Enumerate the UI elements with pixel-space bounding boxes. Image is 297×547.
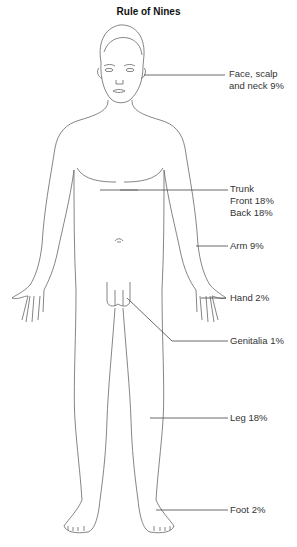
label-trunk-line1: Trunk [230, 183, 274, 195]
right-arm [164, 148, 226, 322]
genitalia [107, 282, 130, 306]
label-trunk: Trunk Front 18% Back 18% [230, 183, 274, 219]
label-genitalia: Genitalia 1% [230, 335, 284, 347]
torso [55, 100, 185, 290]
left-arm [12, 148, 74, 322]
label-face-line2: and neck 9% [229, 80, 284, 92]
label-face: Face, scalp and neck 9% [229, 68, 284, 92]
head [98, 25, 146, 103]
legs [74, 290, 163, 500]
label-trunk-line3: Back 18% [230, 207, 274, 219]
label-foot: Foot 2% [230, 504, 265, 516]
leader-lines [100, 75, 228, 510]
label-face-line1: Face, scalp [229, 68, 284, 80]
label-trunk-line2: Front 18% [230, 195, 274, 207]
feet [64, 500, 174, 533]
label-arm: Arm 9% [230, 240, 264, 252]
label-hand: Hand 2% [230, 292, 269, 304]
label-leg: Leg 18% [230, 412, 268, 424]
leader-genitalia [127, 298, 228, 341]
